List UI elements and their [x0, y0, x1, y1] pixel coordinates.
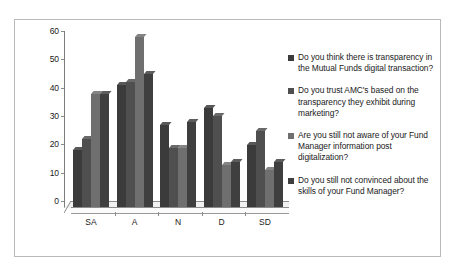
bar[interactable] — [187, 122, 196, 207]
bar-face — [231, 162, 240, 207]
y-axis-line — [64, 31, 65, 208]
chart-floor-front — [71, 207, 289, 214]
bar-group — [160, 31, 196, 207]
bar-face — [213, 116, 222, 207]
y-axis-tick-label: 50 — [39, 54, 59, 64]
x-axis: SAANDSD — [71, 217, 293, 231]
bar-face — [169, 148, 178, 208]
y-axis-tick-label: 10 — [39, 168, 59, 178]
bar[interactable] — [178, 148, 187, 208]
x-axis-label: SA — [85, 217, 96, 227]
bar-face — [144, 74, 153, 207]
bar[interactable] — [117, 85, 126, 207]
y-axis-tick-label: 30 — [39, 111, 59, 121]
bar-face — [187, 122, 196, 207]
x-axis-tick-mark — [158, 212, 159, 216]
bar[interactable] — [274, 162, 283, 207]
bar[interactable] — [231, 162, 240, 207]
bar[interactable] — [160, 125, 169, 207]
legend-item[interactable]: Do you trust AMC's based on the transpar… — [288, 85, 438, 119]
bar[interactable] — [247, 145, 256, 207]
bar[interactable] — [82, 139, 91, 207]
bar-face — [247, 145, 256, 207]
legend-label: Do you think there is transparency in th… — [298, 52, 438, 74]
legend-swatch-icon — [288, 133, 294, 139]
y-axis-tick-label: 40 — [39, 83, 59, 93]
bar-face — [126, 82, 135, 207]
y-axis: 0102030405060 — [39, 31, 59, 207]
bar[interactable] — [265, 170, 274, 207]
bar-group — [204, 31, 240, 207]
bar-face — [265, 170, 274, 207]
legend-swatch-icon — [288, 178, 294, 184]
bar-face — [160, 125, 169, 207]
bar-group — [247, 31, 283, 207]
bar-face — [256, 131, 265, 208]
bar-face — [117, 85, 126, 207]
plot-area: 0102030405060 SAANDSD — [39, 31, 289, 226]
bar-group — [117, 31, 153, 207]
bar-series-container — [71, 31, 289, 208]
bar-face — [274, 162, 283, 207]
x-axis-label: D — [218, 217, 224, 227]
bar-face — [73, 150, 82, 207]
legend-swatch-icon — [288, 88, 294, 94]
bar[interactable] — [213, 116, 222, 207]
bar-face — [178, 148, 187, 208]
bar[interactable] — [135, 37, 144, 207]
x-axis-label: SD — [259, 217, 271, 227]
bar[interactable] — [169, 148, 178, 208]
bar[interactable] — [100, 94, 109, 207]
bar[interactable] — [256, 131, 265, 208]
legend-label: Are you still not aware of your Fund Man… — [298, 130, 438, 164]
y-axis-tick-label: 60 — [39, 26, 59, 36]
legend-label: Do you trust AMC's based on the transpar… — [298, 85, 438, 119]
bar-face — [100, 94, 109, 207]
legend-swatch-icon — [288, 55, 294, 61]
x-axis-tick-mark — [245, 212, 246, 216]
bar[interactable] — [144, 74, 153, 207]
legend-item[interactable]: Are you still not aware of your Fund Man… — [288, 130, 438, 164]
chart-legend: Do you think there is transparency in th… — [288, 52, 438, 208]
legend-label: Do you still not convinced about the ski… — [298, 175, 438, 197]
legend-item[interactable]: Do you think there is transparency in th… — [288, 52, 438, 74]
x-axis-tick-mark — [202, 212, 203, 216]
bar-face — [204, 108, 213, 207]
chart-frame: 0102030405060 SAANDSD Do you think there… — [14, 19, 441, 257]
bar-face — [222, 165, 231, 208]
x-axis-tick-mark — [115, 212, 116, 216]
bar[interactable] — [222, 165, 231, 208]
bar-face — [82, 139, 91, 207]
bar[interactable] — [73, 150, 82, 207]
bar-face — [135, 37, 144, 207]
legend-item[interactable]: Do you still not convinced about the ski… — [288, 175, 438, 197]
bar[interactable] — [91, 94, 100, 207]
y-axis-tick-label: 20 — [39, 139, 59, 149]
bar-group — [73, 31, 109, 207]
y-axis-tick-label: 0 — [39, 196, 59, 206]
bar[interactable] — [204, 108, 213, 207]
x-axis-label: N — [175, 217, 181, 227]
bar-face — [91, 94, 100, 207]
x-axis-label: A — [132, 217, 138, 227]
bar[interactable] — [126, 82, 135, 207]
